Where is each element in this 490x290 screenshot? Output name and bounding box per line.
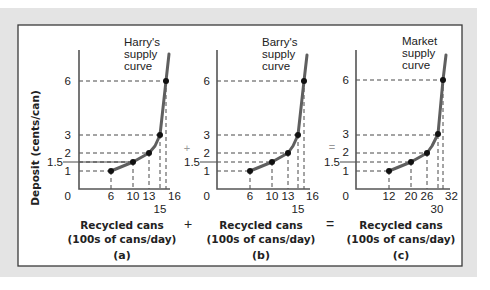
data-point [163, 78, 169, 84]
x-tick: 15 [154, 203, 167, 215]
x-tick: 13 [282, 190, 295, 202]
y-tick-1: 1 [65, 165, 71, 177]
curve-label-line1: Market [402, 35, 438, 47]
curve-label-line1: Barry's [262, 36, 298, 48]
data-point [108, 168, 114, 174]
data-point [440, 77, 446, 83]
x-tick: 13 [143, 190, 156, 202]
y-tick-1-5: 1.5 [184, 156, 200, 168]
curve-label-line2: supply [124, 48, 157, 60]
curve-label-line3: curve [402, 59, 430, 71]
equals-operator: = [326, 216, 334, 232]
panel-label: (b) [252, 249, 270, 262]
x-tick: 10 [266, 190, 279, 202]
data-point [247, 168, 253, 174]
x-tick: 6 [108, 190, 114, 202]
x-axis-label-line1: Recycled cans [219, 219, 302, 231]
y-tick-6: 6 [204, 75, 210, 87]
panel-label: (a) [113, 249, 130, 262]
y-tick-2: 2 [343, 146, 349, 158]
data-point [408, 159, 414, 165]
curve-label-line2: supply [402, 47, 435, 59]
x-tick: 30 [431, 203, 444, 215]
data-point [285, 150, 291, 156]
plus-operator: + [184, 216, 192, 232]
curve-label-line2: supply [262, 48, 295, 60]
data-point [130, 159, 136, 165]
origin-label: 0 [343, 190, 349, 202]
x-tick: 16 [168, 190, 181, 202]
x-tick: 16 [306, 190, 319, 202]
x-tick: 26 [421, 190, 434, 202]
x-tick: 15 [292, 203, 305, 215]
data-point [435, 131, 441, 137]
y-tick-1: 1 [343, 165, 349, 177]
x-tick: 6 [247, 190, 253, 202]
x-axis-label-line2: (100s of cans/day) [207, 233, 316, 245]
origin-label: 0 [65, 190, 71, 202]
data-point [146, 150, 152, 156]
y-tick-1-5: 1.5 [324, 156, 340, 168]
data-point [295, 132, 301, 138]
data-point [301, 78, 307, 84]
data-point [386, 168, 392, 174]
x-axis-label-line1: Recycled cans [359, 219, 442, 231]
y-tick-6: 6 [343, 74, 349, 86]
data-point [424, 150, 430, 156]
faint-plus-mark: + [184, 142, 190, 154]
faint-equals-mark: = [329, 141, 335, 153]
y-tick-6: 6 [65, 75, 71, 87]
x-tick: 32 [445, 190, 458, 202]
y-tick-1: 1 [204, 165, 210, 177]
data-point [269, 159, 275, 165]
y-tick-1-5: 1.5 [47, 156, 63, 168]
x-tick: 20 [405, 190, 418, 202]
y-tick-3: 3 [204, 129, 210, 141]
panel-label: (c) [393, 249, 410, 262]
x-axis-label-line2: (100s of cans/day) [347, 233, 456, 245]
curve-label-line3: curve [124, 60, 152, 72]
x-tick: 10 [127, 190, 140, 202]
origin-label: 0 [204, 190, 210, 202]
curve-label-line1: Harry's [124, 36, 160, 48]
curve-label-line3: curve [262, 60, 290, 72]
y-axis-label: Deposit (cents/can) [29, 90, 41, 205]
x-axis-label-line2: (100s of cans/day) [68, 233, 177, 245]
y-tick-2: 2 [65, 147, 71, 159]
x-tick: 12 [383, 190, 396, 202]
y-tick-3: 3 [343, 128, 349, 140]
data-point [157, 132, 163, 138]
y-tick-3: 3 [65, 129, 71, 141]
y-tick-2: 2 [204, 147, 210, 159]
x-axis-label-line1: Recycled cans [80, 219, 163, 231]
supply-curves-figure: Deposit (cents/can) Harry's supply curv [0, 0, 490, 290]
